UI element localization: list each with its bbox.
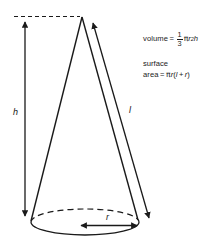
- surface-area-equation: area = π r ( l + r ): [143, 69, 223, 80]
- height-label: h: [13, 108, 18, 117]
- one-third-fraction: 1 3: [177, 31, 183, 48]
- volume-formula: volume = 1 3 π r 2 h: [143, 31, 223, 48]
- fraction-numerator: 1: [177, 31, 183, 38]
- volume-label: volume: [143, 35, 168, 43]
- fraction-denominator: 3: [177, 40, 183, 47]
- area-label: area: [143, 69, 159, 80]
- cone-left-edge: [31, 17, 82, 221]
- slant-variable: l: [176, 69, 178, 80]
- radius-label: r: [106, 213, 109, 222]
- plus-sign: +: [179, 69, 183, 80]
- dashed-hidden-arc: [31, 209, 139, 222]
- close-paren: ): [187, 69, 190, 80]
- formula-block: volume = 1 3 π r 2 h surface area = π r …: [143, 31, 223, 80]
- height-variable: h: [194, 35, 198, 43]
- area-equals-sign: =: [160, 69, 164, 80]
- cone-geometry-diagram: h l r volume = 1 3 π r 2 h surface area …: [0, 0, 224, 246]
- slant-height-label: l: [129, 106, 131, 115]
- volume-equals-sign: =: [170, 35, 174, 43]
- surface-word: surface: [143, 58, 223, 69]
- slant-double-arrow: [93, 23, 149, 218]
- surface-area-formula: surface area = π r ( l + r ): [143, 58, 223, 80]
- cone-right-edge: [82, 17, 138, 220]
- cone-base-ellipse: [31, 222, 139, 235]
